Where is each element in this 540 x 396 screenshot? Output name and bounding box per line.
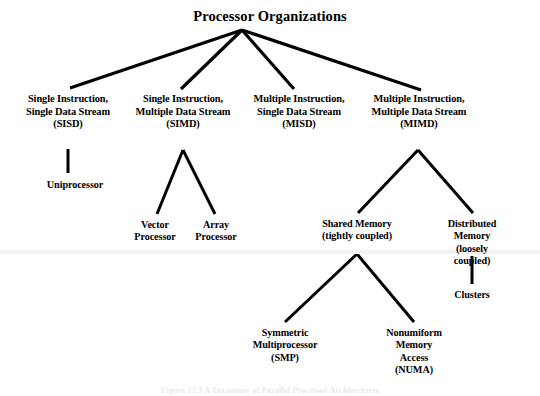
node-uniprocessor: Uniprocessor <box>47 179 103 191</box>
edge-mimd-distributed <box>418 150 473 213</box>
edge-root-misd <box>242 30 294 89</box>
edge-mimd-shared <box>358 150 418 213</box>
edge-simd-array <box>183 150 215 214</box>
node-root: Processor Organizations <box>193 8 347 26</box>
edge-shared-smp <box>285 254 357 322</box>
node-vector-processor: Vector Processor <box>134 219 175 244</box>
edge-simd-vector <box>157 150 183 214</box>
node-smp: Symmetric Multiprocessor (SMP) <box>253 327 318 364</box>
node-sisd: Single Instruction, Single Data Stream (… <box>26 93 110 131</box>
node-simd: Single Instruction, Multiple Data Stream… <box>136 93 231 131</box>
node-clusters: Clusters <box>454 289 489 301</box>
edge-root-simd <box>181 30 242 89</box>
edge-root-mimd <box>242 30 421 90</box>
figure-caption: Figure 17.1 A Taxonomy of Parallel Proce… <box>0 385 540 395</box>
node-misd: Multiple Instruction, Single Data Stream… <box>254 93 345 131</box>
processor-organizations-diagram: Processor Organizations Single Instructi… <box>0 0 540 396</box>
edge-root-sisd <box>70 30 242 88</box>
node-mimd: Multiple Instruction, Multiple Data Stre… <box>372 93 467 131</box>
node-array-processor: Array Processor <box>195 219 236 244</box>
edge-shared-numa <box>357 254 414 322</box>
node-numa: Nonumiform Memory Access (NUMA) <box>386 327 442 377</box>
node-shared-memory: Shared Memory (tightly coupled) <box>322 218 392 243</box>
node-distributed-memory: Distributed Memory (loosely coupled) <box>438 218 506 268</box>
